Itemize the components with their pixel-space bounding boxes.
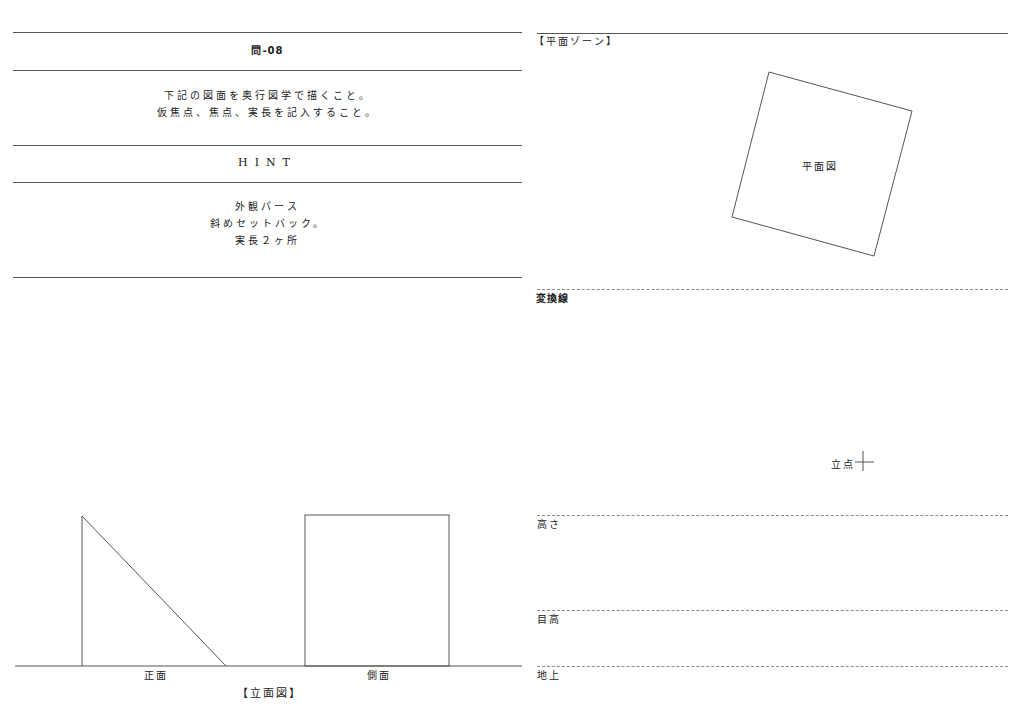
hint-line-3: 実長２ヶ所 xyxy=(13,232,522,250)
eye-level-label: 目高 xyxy=(537,611,561,626)
elevation-caption: 【立面図】 xyxy=(237,684,302,700)
rule-after-hint xyxy=(13,182,522,183)
conversion-line-label: 変換線 xyxy=(536,290,569,305)
ground-label: 地上 xyxy=(537,667,561,682)
plan-zone-heading: 【平面ゾーン】 xyxy=(534,33,618,48)
rule-after-title xyxy=(13,70,522,71)
front-elevation-label: 正面 xyxy=(144,667,168,682)
rule-top xyxy=(13,32,522,33)
instruction-line-2: 仮焦点、焦点、実長を記入すること。 xyxy=(13,104,522,122)
standing-point-label: 立点 xyxy=(831,456,855,471)
hint-line-2: 斜めセットバック。 xyxy=(13,215,522,233)
height-line xyxy=(537,515,1008,516)
front-elevation-shape xyxy=(82,516,226,666)
hint-line-1: 外観パース xyxy=(13,198,522,216)
side-elevation-label: 側面 xyxy=(367,667,391,682)
rule-bottom xyxy=(13,277,522,278)
instruction-line-1: 下記の図面を奥行図学で描くこと。 xyxy=(13,87,522,105)
height-label: 高さ xyxy=(537,516,561,531)
eye-level-line xyxy=(537,610,1008,611)
rule-before-hint xyxy=(13,145,522,146)
hint-heading: HINT xyxy=(13,154,522,172)
side-elevation-shape xyxy=(305,515,449,666)
ground-line xyxy=(537,666,1008,667)
conversion-line xyxy=(537,289,1008,290)
plan-label: 平面図 xyxy=(802,158,838,173)
problem-title: 問-08 xyxy=(13,42,522,60)
standing-point-cross-icon xyxy=(855,451,874,471)
